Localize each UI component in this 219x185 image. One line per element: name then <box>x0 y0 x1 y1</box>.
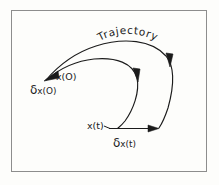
delta-xt-arrowhead <box>148 125 159 132</box>
label-perturbation-at-t: δx(t) <box>113 137 136 149</box>
label-initial-perturbation: δx(O) <box>30 84 57 96</box>
inner-curve-flow-arrowhead <box>133 68 140 82</box>
xt-leader-line <box>104 126 110 129</box>
trajectory-figure: Trajectory x(O) δx(O) x(t) δx(t) <box>0 0 219 185</box>
delta-at-t-argument: x(t) <box>120 139 136 149</box>
delta-initial-argument: x(O) <box>37 86 56 96</box>
label-initial-state: x(O) <box>56 72 77 82</box>
outer-curve-flow-arrowhead <box>166 53 173 67</box>
outer-trajectory-curve <box>46 41 173 128</box>
inner-trajectory-curve <box>46 59 138 128</box>
label-state-at-t: x(t) <box>87 121 104 131</box>
